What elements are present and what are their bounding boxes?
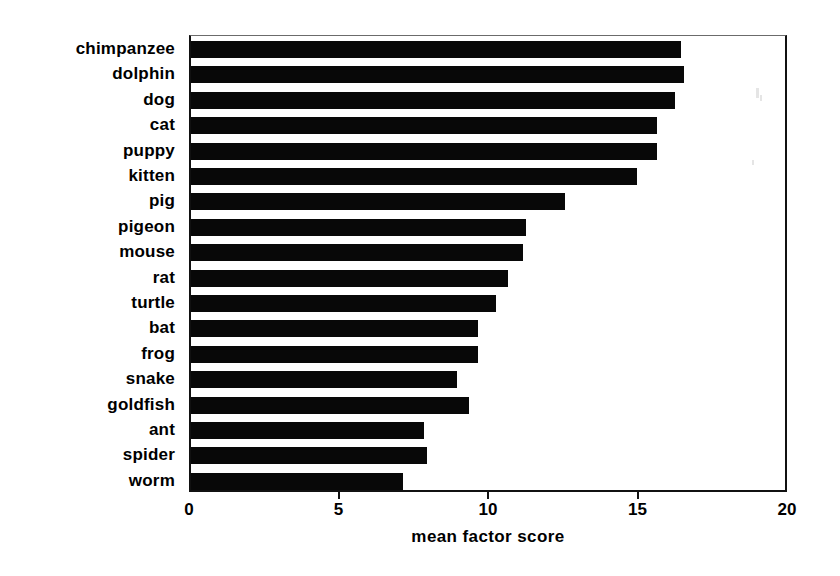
x-tickmark-15: [637, 492, 639, 499]
x-ticklabel-10: 10: [479, 500, 498, 520]
bar-kitten: [191, 168, 637, 185]
bar-turtle: [191, 295, 496, 312]
chart-figure: chimpanzeedolphindogcatpuppykittenpigpig…: [0, 0, 840, 576]
x-axis-title: mean factor score: [189, 527, 787, 547]
category-label-mouse: mouse: [119, 243, 175, 260]
category-label-bat: bat: [149, 319, 175, 336]
category-label-cat: cat: [150, 116, 175, 133]
category-label-chimpanzee: chimpanzee: [76, 40, 175, 57]
category-label-puppy: puppy: [123, 142, 175, 159]
category-label-spider: spider: [123, 446, 175, 463]
scan-artifact: [760, 95, 762, 101]
category-label-rat: rat: [153, 269, 175, 286]
category-label-pig: pig: [149, 192, 175, 209]
x-ticklabel-15: 15: [628, 500, 647, 520]
bar-pig: [191, 193, 565, 210]
bar-rat: [191, 270, 508, 287]
bar-frog: [191, 346, 478, 363]
scan-artifact: [756, 88, 759, 98]
x-ticklabel-0: 0: [184, 500, 193, 520]
category-label-dog: dog: [143, 91, 175, 108]
category-label-snake: snake: [126, 370, 175, 387]
x-ticklabel-5: 5: [334, 500, 343, 520]
category-axis-labels: chimpanzeedolphindogcatpuppykittenpigpig…: [0, 35, 183, 492]
scan-artifact: [752, 160, 754, 165]
bar-series: [191, 36, 785, 490]
x-tickmark-10: [487, 492, 489, 499]
category-label-ant: ant: [149, 421, 175, 438]
bar-dog: [191, 92, 675, 109]
bar-goldfish: [191, 397, 469, 414]
bar-worm: [191, 473, 403, 490]
bar-chimpanzee: [191, 41, 681, 58]
x-tickmark-5: [338, 492, 340, 499]
value-axis-tickmarks: [189, 492, 787, 500]
bar-pigeon: [191, 219, 526, 236]
bar-cat: [191, 117, 657, 134]
category-label-kitten: kitten: [128, 167, 175, 184]
plot-area: [189, 35, 787, 492]
category-label-worm: worm: [129, 472, 175, 489]
category-label-dolphin: dolphin: [112, 65, 175, 82]
bar-spider: [191, 447, 427, 464]
x-ticklabel-20: 20: [778, 500, 797, 520]
bar-dolphin: [191, 66, 684, 83]
category-label-goldfish: goldfish: [107, 396, 175, 413]
bar-mouse: [191, 244, 523, 261]
bar-puppy: [191, 143, 657, 160]
bar-snake: [191, 371, 457, 388]
value-axis-ticklabels: 05101520: [0, 500, 840, 526]
category-label-frog: frog: [141, 345, 175, 362]
bar-bat: [191, 320, 478, 337]
category-label-pigeon: pigeon: [118, 218, 175, 235]
category-label-turtle: turtle: [131, 294, 175, 311]
bar-ant: [191, 422, 424, 439]
